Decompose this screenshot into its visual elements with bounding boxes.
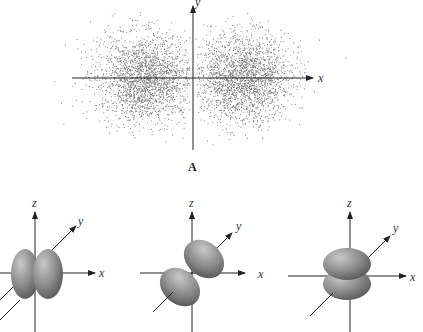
panel-a-dot-density: x y A	[0, 0, 423, 180]
pz-z-label: z	[346, 196, 352, 210]
py-orbital: z y x	[140, 196, 264, 332]
pz-x-label: x	[409, 270, 416, 284]
pz-y-label: y	[392, 221, 399, 235]
py-z-label: z	[188, 196, 194, 210]
py-x-label: x	[257, 267, 264, 281]
dot-density-plot: x y	[0, 0, 423, 180]
px-y-label: y	[77, 214, 84, 228]
x-axis-label: x	[317, 71, 324, 85]
px-z-label: z	[31, 196, 37, 210]
pz-orbital: z y x	[288, 196, 416, 332]
y-axis-label: y	[194, 0, 201, 9]
px-orbital: z y x	[0, 196, 105, 332]
panel-a-label: A	[188, 160, 197, 175]
orbital-shapes: z y x z y x z y x	[0, 190, 423, 332]
py-y-label: y	[235, 219, 242, 233]
px-x-label: x	[98, 266, 105, 280]
